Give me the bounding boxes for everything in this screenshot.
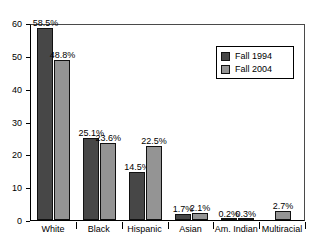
bar-hispanic-fall-1994	[129, 172, 145, 220]
x-tick-label-multiracial: Multiracial	[262, 224, 303, 235]
chart-title: Fall 1994 vs Fall 2004	[0, 0, 317, 2]
x-tick-mark	[122, 222, 123, 229]
legend-label: Fall 2004	[235, 65, 272, 74]
x-tick-label-white: White	[41, 224, 64, 235]
bar-value-label: 2.1%	[190, 204, 211, 213]
bar-asian-fall-1994	[175, 214, 191, 220]
y-tick-label: 60	[12, 20, 22, 29]
x-tick-label-black: Black	[88, 224, 110, 235]
bar-chart: Fall 1994 vs Fall 2004 6050403020100 58.…	[0, 0, 317, 247]
x-tick-mark	[305, 222, 306, 229]
x-tick-label-asian: Asian	[179, 224, 202, 235]
legend-item: Fall 1994	[221, 50, 289, 63]
bar-asian-fall-2004	[192, 213, 208, 220]
x-tick-mark	[76, 222, 77, 229]
x-axis: WhiteBlackHispanicAsianAm. IndianMultira…	[30, 224, 305, 246]
bar-value-label: 23.6%	[95, 134, 121, 143]
x-tick-mark	[168, 222, 169, 229]
bar-value-label: 48.8%	[50, 51, 76, 60]
x-tick-mark	[213, 222, 214, 229]
bar-hispanic-fall-2004	[146, 146, 162, 220]
bar-multiracial-fall-2004	[275, 211, 291, 220]
y-tick-label: 20	[12, 151, 22, 160]
light-gray-swatch	[221, 65, 230, 74]
bar-value-label: 2.7%	[273, 202, 294, 211]
y-tick-label: 30	[12, 118, 22, 127]
y-axis: 6050403020100	[0, 0, 30, 247]
bar-value-label: 0.3%	[235, 210, 256, 219]
x-tick-mark	[259, 222, 260, 229]
bar-black-fall-1994	[83, 138, 99, 220]
y-tick-label: 10	[12, 184, 22, 193]
legend-label: Fall 1994	[235, 52, 272, 61]
y-tick-label: 0	[17, 217, 22, 226]
legend-item: Fall 2004	[221, 63, 289, 76]
bar-value-label: 58.5%	[33, 19, 59, 28]
y-tick-label: 40	[12, 85, 22, 94]
x-tick-label-hispanic: Hispanic	[127, 224, 162, 235]
bar-white-fall-2004	[54, 60, 70, 220]
x-tick-label-am-indian: Am. Indian	[215, 224, 258, 235]
bar-value-label: 22.5%	[141, 137, 167, 146]
dark-gray-swatch	[221, 52, 230, 61]
y-tick-label: 50	[12, 52, 22, 61]
y-tick-mark	[26, 221, 30, 222]
bar-black-fall-2004	[100, 143, 116, 220]
chart-legend: Fall 1994Fall 2004	[216, 46, 294, 79]
